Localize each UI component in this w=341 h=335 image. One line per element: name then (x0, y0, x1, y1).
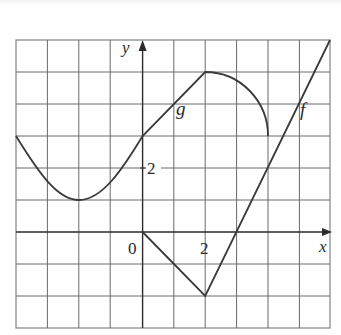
axes (16, 46, 326, 328)
x-axis-label: x (318, 237, 327, 256)
y-tick-label-2: 2 (147, 159, 156, 178)
graph: y x 0 2 2 g f (0, 0, 341, 335)
y-axis-label: y (120, 38, 130, 57)
x-tick-label-2: 2 (200, 239, 209, 258)
curve-f-label: f (300, 99, 308, 120)
grid (16, 40, 330, 328)
curve-g-label: g (176, 98, 186, 119)
y-axis-arrow-icon (139, 40, 147, 51)
origin-label: 0 (128, 239, 137, 258)
